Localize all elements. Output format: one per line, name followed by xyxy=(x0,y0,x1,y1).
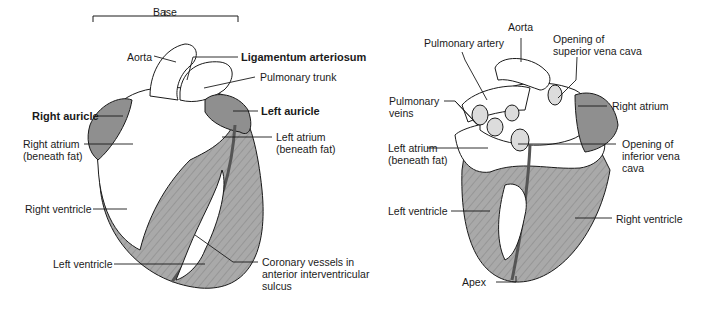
label-coronary-vessels-2: anterior interventricular xyxy=(262,268,369,280)
label-ivc-opening-2: inferior vena xyxy=(622,150,680,162)
label-right-ventricle-posterior: Right ventricle xyxy=(616,213,683,225)
label-ivc-opening-3: cava xyxy=(622,162,644,174)
label-left-atrium-anterior-sub: (beneath fat) xyxy=(276,143,336,155)
label-left-atrium-posterior: Left atrium xyxy=(388,142,438,154)
label-aorta-anterior: Aorta xyxy=(127,51,152,63)
label-right-atrium-anterior: Right atrium xyxy=(23,138,80,150)
label-right-atrium-posterior: Right atrium xyxy=(612,100,669,112)
label-pulmonary-veins: Pulmonary xyxy=(389,95,439,107)
label-pulmonary-veins-2: veins xyxy=(389,107,414,119)
label-ivc-opening: Opening of xyxy=(622,138,673,150)
label-left-atrium-posterior-sub: (beneath fat) xyxy=(388,154,448,166)
label-right-atrium-anterior-sub: (beneath fat) xyxy=(23,150,83,162)
anterior-heart xyxy=(88,10,263,288)
label-right-ventricle-anterior: Right ventricle xyxy=(25,203,92,215)
label-pulmonary-artery: Pulmonary artery xyxy=(424,37,504,49)
label-left-ventricle-anterior: Left ventricle xyxy=(53,258,113,270)
label-pulmonary-trunk: Pulmonary trunk xyxy=(260,71,336,83)
label-right-auricle: Right auricle xyxy=(32,110,99,122)
label-apex: Apex xyxy=(462,276,486,288)
label-aorta-posterior: Aorta xyxy=(508,21,533,33)
label-left-auricle: Left auricle xyxy=(261,105,320,117)
label-base: Base xyxy=(153,6,177,18)
label-ligamentum-arteriosum: Ligamentum arteriosum xyxy=(241,51,366,63)
label-coronary-vessels: Coronary vessels in xyxy=(262,256,354,268)
label-left-ventricle-posterior: Left ventricle xyxy=(388,205,448,217)
posterior-heart xyxy=(455,58,618,282)
label-left-atrium-anterior: Left atrium xyxy=(276,131,326,143)
label-svc-opening: Opening of xyxy=(553,33,604,45)
label-svc-opening-2: superior vena cava xyxy=(553,45,642,57)
label-coronary-vessels-3: sulcus xyxy=(262,280,292,292)
